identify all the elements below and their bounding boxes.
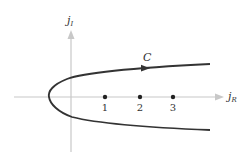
point-2-label: 2 (137, 102, 143, 113)
vertical-axis-arrow-icon (68, 30, 75, 39)
vertical-axis-label: jI (64, 14, 73, 28)
horizontal-axis-label: jR (225, 90, 237, 104)
point-1-label: 1 (102, 102, 108, 113)
horizontal-axis-arrow-icon (215, 94, 224, 101)
horizontal-axis (14, 94, 224, 101)
point-3-label: 3 (170, 102, 176, 113)
contour-label: C (143, 51, 152, 64)
contour-direction-arrow-icon (141, 65, 150, 72)
vertical-axis (68, 30, 75, 152)
diagram-canvas: jI jR C 1 2 3 (0, 0, 250, 160)
